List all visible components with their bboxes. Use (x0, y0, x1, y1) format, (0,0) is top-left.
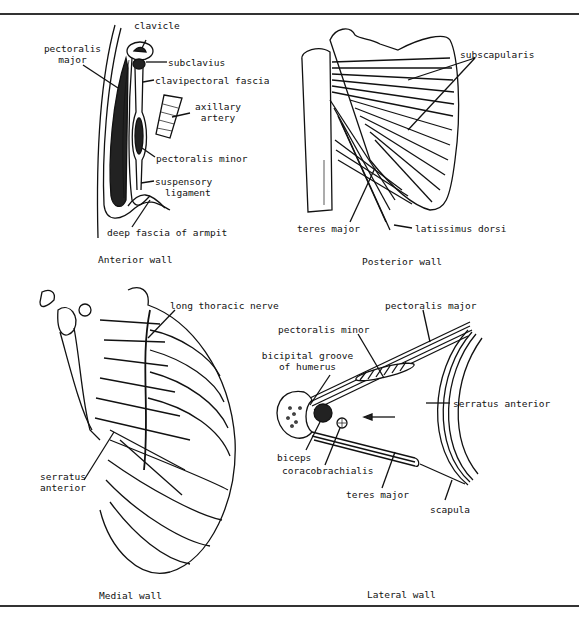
label-serratus-anterior-lateral: serratus anterior (453, 398, 550, 409)
label-suspensory-ligament: suspensory ligament (155, 176, 212, 198)
label-line: pectoralis (40, 43, 105, 54)
label-pectoralis-minor: pectoralis minor (156, 153, 248, 164)
label-clavicle: clavicle (134, 20, 180, 31)
caption-posterior-wall: Posterior wall (362, 256, 442, 267)
label-subscapularis: subscapularis (460, 49, 534, 60)
label-pectoralis-minor-lateral: pectoralis minor (278, 324, 370, 335)
posterior-wall-illustration (290, 0, 579, 285)
panel-medial-wall: long thoracic nerve serratus anterior Me… (0, 280, 290, 605)
caption-lateral-wall: Lateral wall (367, 589, 436, 600)
label-axillary-artery: axillary artery (188, 101, 248, 123)
label-line: axillary (188, 101, 248, 112)
label-coracobrachialis: coracobrachialis (282, 465, 374, 476)
label-line: ligament (155, 187, 212, 198)
label-bicipital-groove: bicipital groove of humerus (260, 350, 355, 372)
panel-lateral-wall: pectoralis major pectoralis minor bicipi… (260, 280, 579, 605)
medial-wall-illustration (0, 280, 290, 605)
label-serratus-anterior: serratus anterior (38, 471, 88, 493)
label-scapula: scapula (430, 504, 470, 515)
label-latissimus-dorsi: latissimus dorsi (415, 223, 507, 234)
label-teres-major: teres major (297, 223, 360, 234)
panel-anterior-wall: clavicle pectoralis major subclavius cla… (0, 0, 290, 285)
label-biceps: biceps (277, 452, 311, 463)
caption-anterior-wall: Anterior wall (98, 254, 172, 265)
label-subclavius: subclavius (168, 57, 225, 68)
label-line: bicipital groove (260, 350, 355, 361)
panel-posterior-wall: subscapularis teres major latissimus dor… (290, 0, 579, 285)
label-line: serratus (38, 471, 88, 482)
bottom-rule (0, 605, 579, 607)
label-deep-fascia: deep fascia of armpit (107, 227, 227, 238)
label-teres-major-lateral: teres major (346, 489, 409, 500)
label-line: of humerus (260, 361, 355, 372)
label-pectoralis-major: pectoralis major (40, 43, 105, 65)
label-line: artery (188, 112, 248, 123)
label-line: anterior (38, 482, 88, 493)
label-line: suspensory (155, 176, 212, 187)
label-pectoralis-major-lateral: pectoralis major (385, 300, 477, 311)
caption-medial-wall: Medial wall (99, 590, 162, 601)
label-line: major (40, 54, 105, 65)
label-clavipectoral-fascia: clavipectoral fascia (155, 75, 269, 86)
